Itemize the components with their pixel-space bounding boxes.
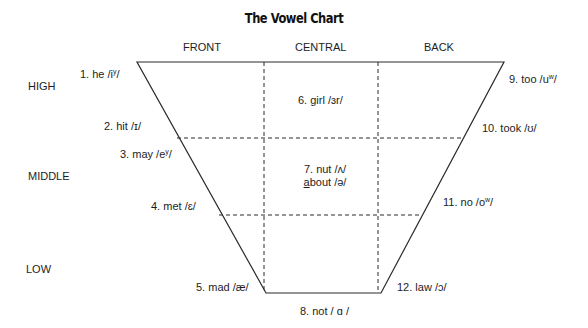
vowel-label-not: 8. not / ɑ / xyxy=(300,305,349,318)
vowel-label-may: 3. may /ey/ xyxy=(120,148,172,161)
vowel-label-too: 9. too /uw/ xyxy=(509,73,557,86)
vowel-label-law: 12. law /ɔ/ xyxy=(397,281,447,294)
vowel-label-about: about /ə/ xyxy=(290,176,360,189)
vowel-label-no: 11. no /ow/ xyxy=(443,196,493,209)
vowel-label-mad: 5. mad /æ/ xyxy=(196,281,249,294)
vowel-label-hit: 2. hit /ɪ/ xyxy=(104,120,141,133)
vowel-label-girl: 6. girl /ɜr/ xyxy=(298,94,343,107)
vowel-label-met: 4. met /ɛ/ xyxy=(151,200,196,213)
vowel-label-nut: 7. nut /ʌ/ xyxy=(290,163,360,176)
vowel-label-he: 1. he /iy/ xyxy=(80,68,120,81)
vowel-label-took: 10. took /ʊ/ xyxy=(482,122,537,135)
